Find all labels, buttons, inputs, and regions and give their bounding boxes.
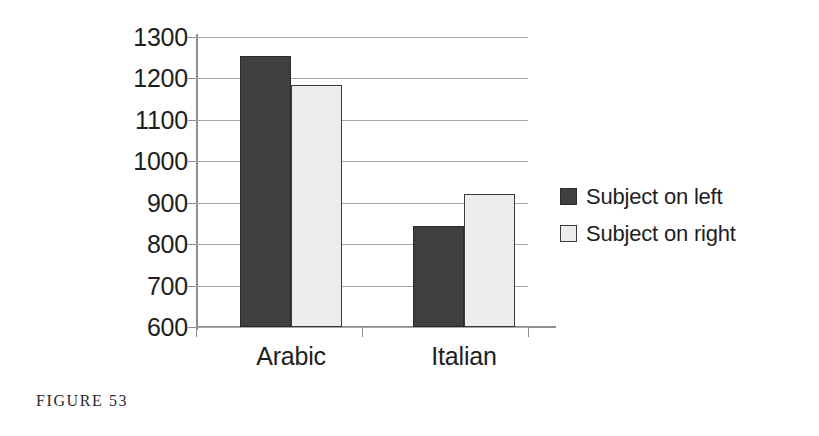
- y-axis-tick-label: 1000: [96, 149, 188, 174]
- y-axis-tick-label: 700: [96, 274, 188, 299]
- y-axis-tick-label: 1300: [96, 25, 188, 50]
- x-axis-label-arabic: Arabic: [211, 344, 371, 369]
- bar-arabic-light[interactable]: [291, 85, 342, 327]
- x-axis-separator-tick: [528, 326, 529, 337]
- plot-area: [196, 37, 528, 327]
- legend-swatch-icon-dark: [560, 188, 577, 205]
- y-axis-tick-label: 1200: [96, 66, 188, 91]
- x-axis-label-italian: Italian: [384, 344, 544, 369]
- legend-item-subject-on-left[interactable]: Subject on left: [560, 178, 736, 215]
- bar-arabic-dark[interactable]: [240, 56, 291, 327]
- figure-caption: FIGURE 53: [36, 392, 128, 410]
- y-axis-tick-labels: 1300120011001000900800700600: [96, 37, 188, 327]
- y-axis-tick-label: 600: [96, 315, 188, 340]
- legend-label-subject-on-left: Subject on left: [586, 186, 722, 208]
- gridline: [196, 37, 528, 38]
- y-axis-tick-label: 1100: [96, 108, 188, 133]
- bar-italian-dark[interactable]: [413, 226, 464, 328]
- y-axis-tick-label: 900: [96, 191, 188, 216]
- figure-container: Reaction time (in milliseconds) 13001200…: [0, 0, 819, 436]
- legend-item-subject-on-right[interactable]: Subject on right: [560, 215, 736, 252]
- bar-italian-light[interactable]: [464, 194, 515, 327]
- legend-swatch-icon-light: [560, 225, 577, 242]
- x-axis-separator-tick: [362, 326, 363, 337]
- legend: Subject on left Subject on right: [560, 178, 736, 252]
- x-axis-separator-tick: [196, 326, 197, 337]
- y-axis-tick-label: 800: [96, 232, 188, 257]
- legend-label-subject-on-right: Subject on right: [586, 223, 736, 245]
